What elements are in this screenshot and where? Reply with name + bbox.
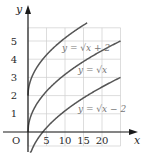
y-tick-label: 2: [11, 90, 17, 101]
y-axis-arrow-icon: [25, 5, 31, 14]
curve-label: y = √x + 2: [61, 43, 110, 53]
x-tick-label: 10: [59, 135, 72, 146]
curve-line: [28, 41, 121, 132]
x-tick-label: 15: [77, 135, 90, 146]
x-tick-label: 5: [43, 135, 49, 146]
origin-label: O: [12, 135, 20, 146]
x-axis-label: x: [134, 134, 141, 147]
x-tick-label: 20: [96, 135, 109, 146]
curve-label: y = √x: [77, 65, 107, 75]
curve-label: y = √x − 2: [77, 104, 126, 114]
y-tick-label: 4: [11, 54, 17, 65]
chart: 510152012345 x y O y = √x + 2y = √xy = √…: [0, 0, 144, 155]
y-tick-label: 1: [11, 108, 17, 119]
y-tick-label: 5: [11, 36, 17, 47]
y-axis-label: y: [15, 3, 23, 16]
y-tick-label: 3: [11, 72, 17, 83]
